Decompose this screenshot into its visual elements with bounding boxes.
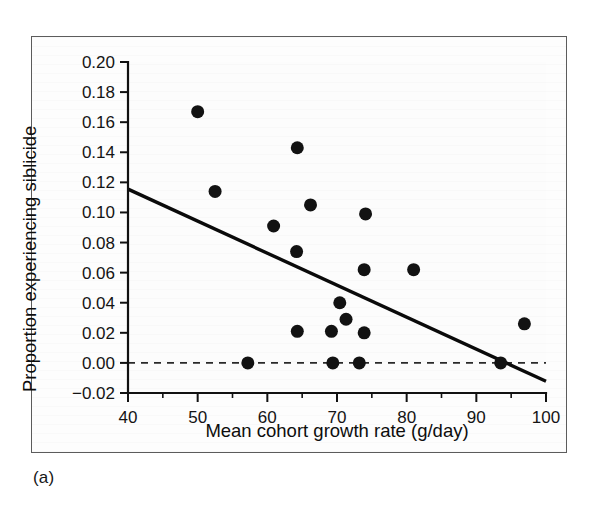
data-point: [304, 198, 317, 211]
data-point: [359, 207, 372, 220]
data-point: [494, 356, 507, 369]
data-point: [291, 325, 304, 338]
data-point: [291, 141, 304, 154]
data-point: [407, 263, 420, 276]
y-axis-title: Proportion experiencing siblicide: [19, 126, 40, 392]
x-axis-title: Mean cohort growth rate (g/day): [205, 420, 468, 441]
x-tick-label: 100: [532, 408, 560, 427]
data-point: [358, 326, 371, 339]
y-axis-tick-labels: −0.020.000.020.040.060.080.100.120.140.1…: [72, 53, 115, 403]
data-point: [340, 313, 353, 326]
y-tick-label: 0.10: [82, 203, 115, 222]
data-point: [325, 325, 338, 338]
data-point: [333, 296, 346, 309]
x-axis-ticks: [128, 393, 546, 402]
x-tick-label: 90: [467, 408, 486, 427]
y-tick-label: 0.08: [82, 234, 115, 253]
y-tick-label: −0.02: [72, 384, 115, 403]
data-point: [267, 219, 280, 232]
data-point: [191, 105, 204, 118]
scatter-plot: −0.020.000.020.040.060.080.100.120.140.1…: [0, 0, 601, 509]
y-tick-label: 0.18: [82, 83, 115, 102]
y-tick-label: 0.20: [82, 53, 115, 72]
data-point: [518, 317, 531, 330]
data-point: [326, 356, 339, 369]
y-axis-ticks: [120, 62, 128, 393]
x-tick-label: 50: [188, 408, 207, 427]
data-point: [353, 356, 366, 369]
x-tick-label: 40: [119, 408, 138, 427]
y-tick-label: 0.00: [82, 354, 115, 373]
y-tick-label: 0.14: [82, 143, 115, 162]
data-point: [290, 245, 303, 258]
plot-background: [128, 62, 546, 393]
data-point: [209, 185, 222, 198]
y-tick-label: 0.04: [82, 294, 115, 313]
y-tick-label: 0.06: [82, 264, 115, 283]
data-point: [241, 356, 254, 369]
subfigure-caption: (a): [33, 468, 54, 488]
y-tick-label: 0.16: [82, 113, 115, 132]
y-tick-label: 0.12: [82, 173, 115, 192]
y-tick-label: 0.02: [82, 324, 115, 343]
figure-root: −0.020.000.020.040.060.080.100.120.140.1…: [0, 0, 601, 509]
data-point: [358, 263, 371, 276]
